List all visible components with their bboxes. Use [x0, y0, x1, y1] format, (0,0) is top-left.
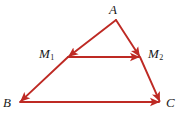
vertex-label-c-text: C	[166, 95, 175, 110]
vertex-label-m2-subscript: 2	[159, 53, 164, 62]
vertex-label-a-text: A	[109, 2, 117, 17]
vector-a-to-m2	[116, 20, 139, 56]
geometry-figure: A M1 M2 B C	[0, 0, 185, 118]
vertex-label-m1: M1	[39, 45, 54, 62]
vector-m2-to-c	[140, 57, 160, 101]
vertex-label-b: B	[3, 94, 11, 110]
vector-m1-to-b	[21, 57, 68, 101]
vertex-label-m1-text: M	[39, 46, 50, 61]
vertex-label-b-text: B	[3, 95, 11, 110]
vertex-label-m1-subscript: 1	[50, 53, 55, 62]
vertex-label-m2: M2	[148, 45, 163, 62]
vertex-label-c: C	[166, 94, 175, 110]
vertex-label-a: A	[109, 1, 117, 17]
vertex-label-m2-text: M	[148, 46, 159, 61]
vector-a-to-m1	[69, 20, 116, 56]
